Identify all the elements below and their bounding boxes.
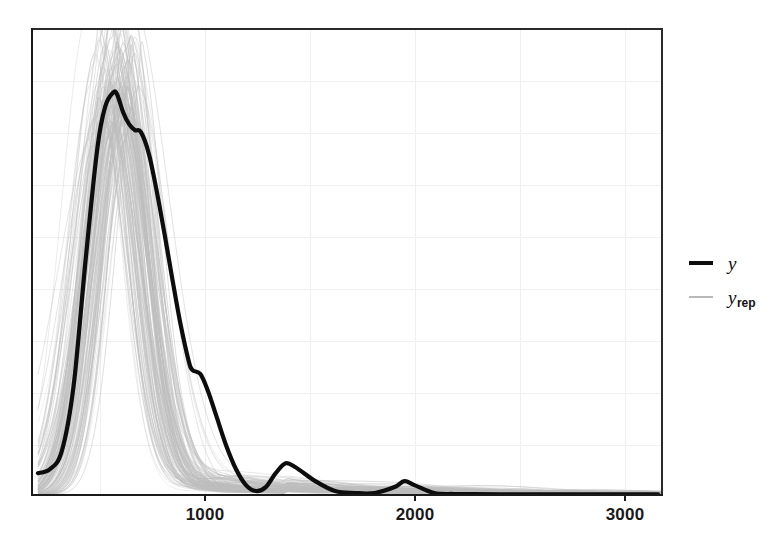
legend-label-yrep: yrep: [728, 288, 755, 307]
legend-item-yrep[interactable]: yrep: [688, 280, 766, 314]
legend-item-y[interactable]: y: [688, 246, 766, 280]
x-tick-label-3000: 3000: [606, 505, 645, 525]
x-tick-label-2000: 2000: [396, 505, 435, 525]
chart-figure: 1000 2000 3000 y yrep: [0, 0, 769, 545]
legend-key-yrep-line: [688, 296, 714, 298]
chart-legend: y yrep: [688, 246, 766, 314]
legend-label-y: y: [728, 254, 736, 273]
legend-key-y-line: [688, 261, 714, 265]
x-tick-label-1000: 1000: [186, 505, 225, 525]
density-overlay-plot: [0, 0, 769, 545]
legend-label-yrep-subscript: rep: [737, 296, 756, 310]
